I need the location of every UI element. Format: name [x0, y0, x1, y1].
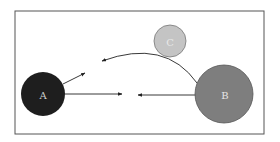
node-a-label: A [38, 90, 47, 101]
node-c: C [154, 25, 186, 57]
node-c-label: C [166, 37, 174, 48]
node-b: B [195, 65, 253, 123]
node-b-label: B [221, 90, 228, 101]
node-a: A [21, 72, 65, 116]
diagram-canvas: A B C [0, 0, 280, 142]
